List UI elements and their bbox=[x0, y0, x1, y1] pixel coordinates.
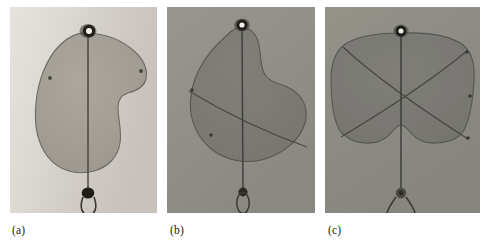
surface-marker-b-1 bbox=[190, 88, 194, 92]
surface-marker-c-2 bbox=[468, 94, 472, 98]
panel-b-image bbox=[167, 7, 315, 213]
surface-marker-c-3 bbox=[466, 136, 470, 140]
panel-caption-a: (a) bbox=[12, 224, 25, 236]
figure-panel-a bbox=[10, 7, 157, 213]
panel-caption-b: (b) bbox=[170, 224, 184, 236]
figure-panel-c bbox=[325, 7, 480, 213]
figure-root: (a) (b) (c) bbox=[0, 0, 492, 250]
surface-marker-c-1 bbox=[465, 50, 469, 54]
panel-caption-c: (c) bbox=[328, 224, 341, 236]
top-fitting-c bbox=[393, 25, 408, 38]
surface-marker-a-1 bbox=[48, 76, 52, 80]
surface-marker-b-2 bbox=[209, 133, 213, 137]
top-fitting-b bbox=[234, 18, 250, 31]
panel-c-image bbox=[325, 7, 480, 213]
surface-marker-a-2 bbox=[139, 69, 143, 73]
panel-a-image bbox=[10, 7, 157, 213]
top-fitting-a bbox=[80, 24, 97, 38]
figure-panel-b bbox=[167, 7, 315, 213]
suspension-line-b bbox=[242, 26, 243, 193]
